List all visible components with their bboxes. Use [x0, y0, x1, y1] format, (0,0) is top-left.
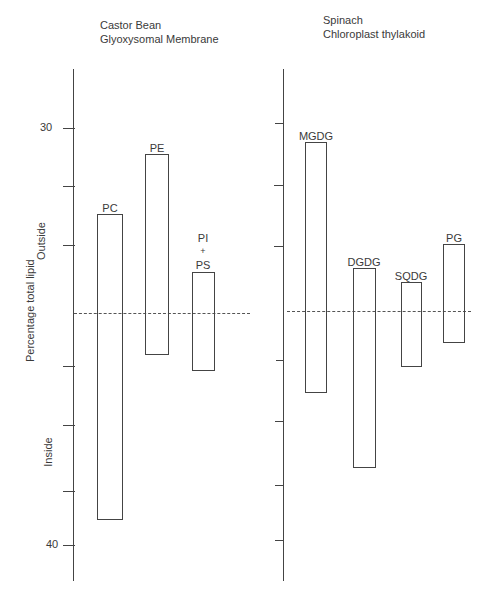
- y-axis-label: Percentage total lipid: [24, 262, 36, 362]
- left-tick: [63, 545, 75, 546]
- left-tick: [63, 425, 75, 426]
- bar-dgdg: [353, 268, 376, 468]
- left-y-axis: [73, 69, 74, 581]
- tick-label-30: 30: [40, 121, 52, 133]
- bar-pi-ps: [192, 272, 215, 371]
- right-y-axis: [283, 69, 284, 581]
- bar-label-pg: PG: [443, 232, 465, 244]
- bar-label-mgdg: MGDG: [298, 130, 334, 142]
- bar-pc: [97, 214, 123, 520]
- left-tick: [63, 186, 75, 187]
- bar-pg: [443, 244, 465, 343]
- bar-label-pi: PI: [192, 232, 214, 244]
- bar-label-sqdg: SQDG: [393, 270, 429, 282]
- left-tick: [63, 491, 75, 492]
- inside-label: Inside: [42, 427, 54, 477]
- bar-sqdg: [401, 282, 422, 367]
- bar-label-pe: PE: [145, 142, 169, 154]
- left-tick: [63, 128, 75, 129]
- left-tick: [63, 245, 75, 246]
- right-title-line2: Chloroplast thylakoid: [323, 27, 425, 41]
- bar-mgdg: [305, 142, 327, 393]
- right-title-line1: Spinach: [323, 13, 363, 27]
- bar-pe: [145, 154, 169, 355]
- left-tick: [63, 366, 75, 367]
- right-tick: [276, 360, 284, 361]
- left-title-line2: Glyoxysomal Membrane: [100, 32, 219, 46]
- right-tick: [275, 421, 284, 422]
- bar-label-plus: +: [192, 246, 214, 256]
- tick-label-40: 40: [46, 538, 58, 550]
- right-tick: [275, 540, 284, 541]
- left-title-line1: Castor Bean: [100, 18, 161, 32]
- right-tick: [275, 123, 284, 124]
- right-tick: [274, 185, 284, 186]
- bar-label-ps: PS: [192, 259, 214, 271]
- right-tick: [274, 246, 284, 247]
- right-tick: [275, 485, 284, 486]
- outside-label: Outside: [35, 216, 47, 266]
- bar-label-pc: PC: [97, 202, 123, 214]
- bar-label-dgdg: DGDG: [346, 256, 382, 268]
